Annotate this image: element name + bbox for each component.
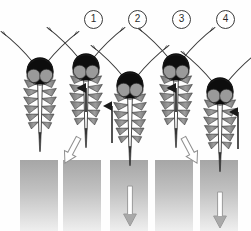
figure-canvas: 1 2 3 4 <box>0 0 251 231</box>
skin-block <box>20 160 58 231</box>
step-label-2: 2 <box>128 10 147 29</box>
mosquito-panel-1 <box>47 27 125 166</box>
arrow-down-white <box>124 186 137 226</box>
skin-block <box>63 160 101 231</box>
mosquito-panel-2 <box>91 45 169 226</box>
skin-block <box>155 160 193 231</box>
step-label-3: 3 <box>172 10 191 29</box>
mosquito-panel-4 <box>181 51 251 228</box>
skin-block <box>110 160 148 231</box>
mosquito-insertion-diagram <box>0 0 251 231</box>
arrow-down-white <box>59 135 84 167</box>
mosquito-panel-3 <box>137 27 215 166</box>
arrow-down-white <box>214 192 227 228</box>
diagram-svg-layer <box>0 0 251 231</box>
skin-block <box>200 160 238 231</box>
skin-blocks <box>20 160 238 231</box>
step-label-4: 4 <box>216 10 235 29</box>
step-label-1: 1 <box>84 10 103 29</box>
mosquito-panel-0 <box>1 31 79 151</box>
arrow-down-white <box>178 135 203 167</box>
